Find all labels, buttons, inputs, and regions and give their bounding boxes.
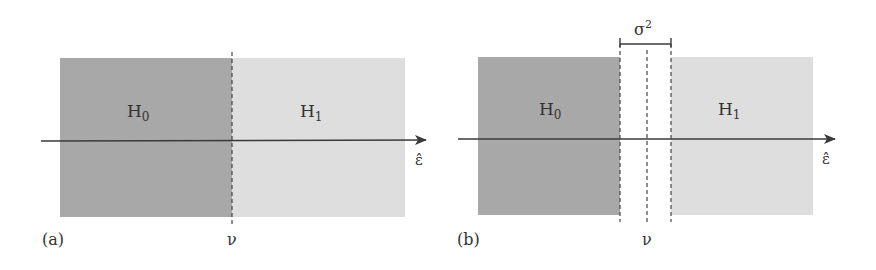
threshold-label-nu: ν [227,230,237,249]
axis-label-epsilon-hat: ε̂ [415,151,423,169]
panel-a: H0 H1 ε̂ ν (a) [41,52,426,249]
threshold-label-nu: ν [642,230,652,249]
uncertainty-gap [620,57,671,215]
axis-label-epsilon-hat: ε̂ [822,150,830,168]
panel-b: σ2 H0 H1 ε̂ ν (b) [457,18,835,249]
h1-region [671,57,813,215]
hypothesis-decision-diagram: H0 H1 ε̂ ν (a) σ2 H0 H1 ε̂ ν (b) [0,0,876,270]
h0-region [478,57,620,215]
panel-tag-b: (b) [457,230,480,249]
axis-line [41,140,426,141]
h0-region [60,58,232,217]
h1-region [232,58,405,217]
panel-tag-a: (a) [42,230,64,249]
sigma-squared-label: σ2 [634,18,652,39]
